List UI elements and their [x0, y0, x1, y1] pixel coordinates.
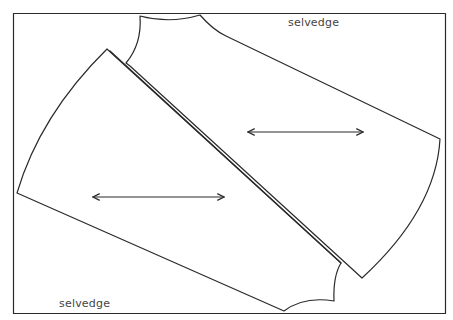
selvedge-label-top: selvedge [288, 17, 339, 28]
fold-line [110, 51, 341, 263]
fabric-frame [14, 14, 446, 314]
pattern-layout-diagram [0, 0, 453, 320]
selvedge-label-bottom: selvedge [59, 298, 110, 309]
pattern-piece-left [17, 49, 341, 311]
pattern-piece-right [126, 15, 440, 278]
